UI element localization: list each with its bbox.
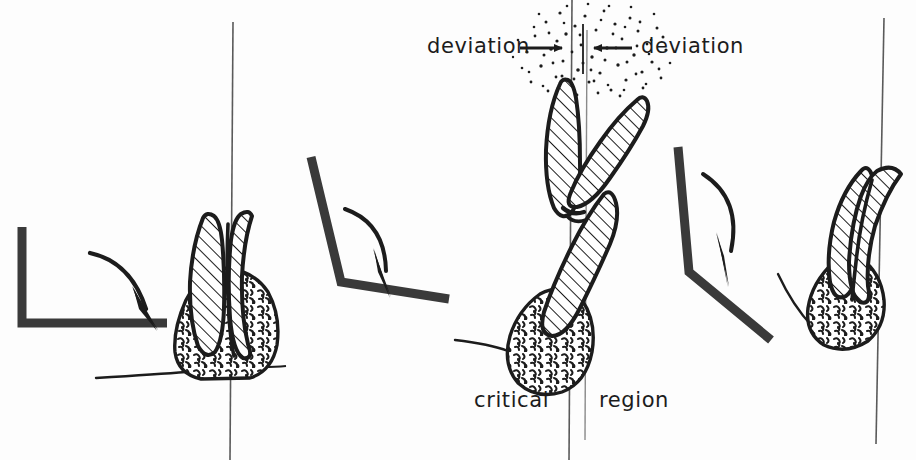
bone-baseline-panel1: [96, 372, 186, 378]
panel-upright-tooth: [22, 22, 286, 460]
axis-line-panel3: [876, 18, 884, 444]
diagram-illustration: [0, 0, 916, 460]
bone-baseline-panel2: [455, 340, 508, 351]
deviation-label-left: deviation: [427, 36, 530, 57]
panel-severely-tilted-tooth: [778, 18, 901, 444]
axis-line-panel2-left: [569, 0, 572, 460]
angle-indicator-most-reduced: [678, 147, 771, 340]
region-label: region: [599, 390, 669, 411]
tooth1-root-left: [190, 214, 224, 355]
angle-indicator-reduced: [311, 157, 449, 299]
deviation-label-right: deviation: [641, 36, 744, 57]
critical-label: critical: [474, 390, 549, 411]
figure-canvas: deviation deviation critical region: [0, 0, 916, 460]
angle-indicator-90: [22, 227, 167, 331]
